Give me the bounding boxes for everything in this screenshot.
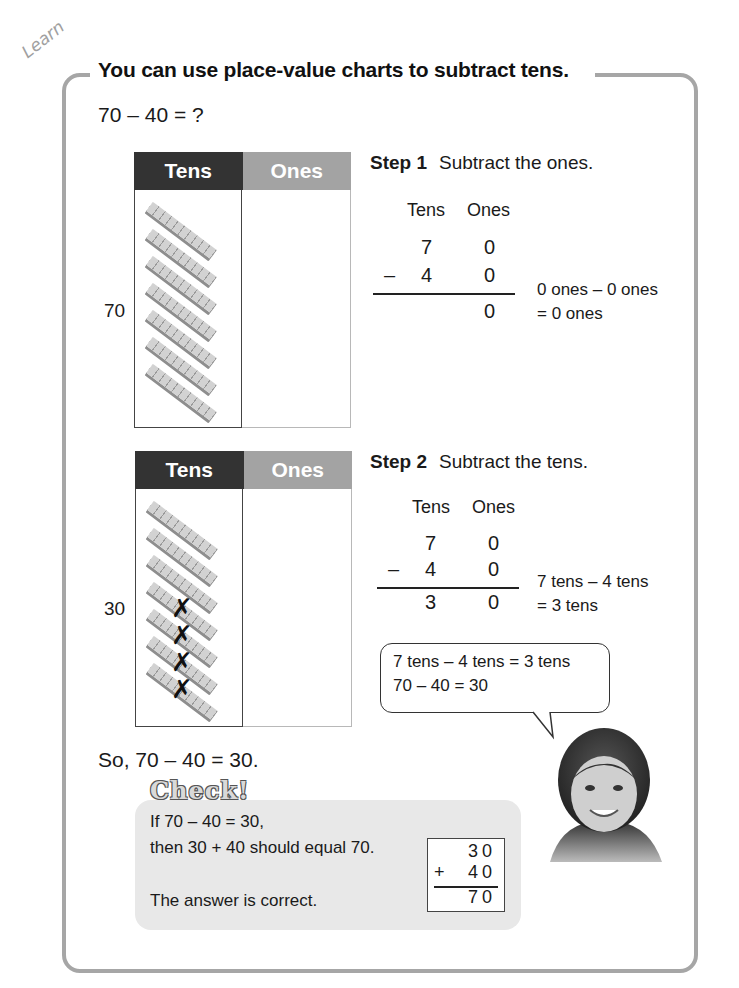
sum: 70 <box>468 887 496 908</box>
child-photo <box>540 722 668 862</box>
step-2-heading: Step 2Subtract the tens. <box>370 451 588 473</box>
step-1-label: Step 1 <box>370 152 427 173</box>
learn-tag: Learn <box>18 17 68 62</box>
note-line: 7 tens – 4 tens <box>537 570 649 594</box>
digit: 4 <box>421 264 432 287</box>
check-line: If 70 – 40 = 30, <box>150 812 264 832</box>
digit: 0 <box>488 532 499 555</box>
digit: 7 <box>425 532 436 555</box>
step-1-note: 0 ones – 0 ones = 0 ones <box>537 278 658 326</box>
place-value-chart-1: Tens Ones <box>134 152 351 428</box>
digit: 3 <box>425 591 436 614</box>
tens-column: ✗ ✗ ✗ ✗ <box>135 489 243 727</box>
step-1-title: Subtract the ones. <box>439 152 593 173</box>
col-label-tens: Tens <box>407 200 445 221</box>
step-2-title: Subtract the tens. <box>439 451 588 472</box>
tens-header: Tens <box>135 451 244 489</box>
tens-header: Tens <box>134 152 243 190</box>
bubble-line: 7 tens – 4 tens = 3 tens <box>393 650 597 674</box>
cross-out-icon: ✗ <box>171 647 193 677</box>
digit: 0 <box>484 300 495 323</box>
conclusion: So, 70 – 40 = 30. <box>98 748 259 772</box>
digit: 0 <box>484 264 495 287</box>
note-line: = 3 tens <box>537 594 649 618</box>
digit: 0 <box>488 591 499 614</box>
lesson-title: You can use place-value charts to subtra… <box>98 58 569 82</box>
addend: 30 <box>468 841 496 862</box>
problem-statement: 70 – 40 = ? <box>98 103 204 127</box>
digit: 4 <box>425 558 436 581</box>
check-line: The answer is correct. <box>150 891 317 911</box>
chart-1-value: 70 <box>104 300 125 322</box>
bubble-line: 70 – 40 = 30 <box>393 674 597 698</box>
step-2-note: 7 tens – 4 tens = 3 tens <box>537 570 649 618</box>
digit: 0 <box>484 236 495 259</box>
subtraction-rule <box>377 587 519 589</box>
ones-header: Ones <box>243 152 352 190</box>
ones-header: Ones <box>244 451 353 489</box>
tens-column <box>134 190 242 428</box>
ones-column <box>242 190 351 428</box>
addition-check-box: 30 + 40 70 <box>427 838 505 912</box>
digit: 7 <box>421 236 432 259</box>
col-label-tens: Tens <box>412 497 450 518</box>
place-value-chart-2: Tens Ones ✗ ✗ ✗ ✗ <box>135 451 352 727</box>
chart-2-value: 30 <box>104 598 125 620</box>
plus-sign: + <box>434 862 449 883</box>
col-label-ones: Ones <box>467 200 510 221</box>
col-label-ones: Ones <box>472 497 515 518</box>
check-title: Check! <box>150 776 250 805</box>
digit: 0 <box>488 558 499 581</box>
minus-sign: – <box>384 264 395 287</box>
step-2-label: Step 2 <box>370 451 427 472</box>
ones-column <box>243 489 352 727</box>
cross-out-icon: ✗ <box>171 674 193 704</box>
subtraction-rule <box>373 293 515 295</box>
check-line: then 30 + 40 should equal 70. <box>150 838 375 858</box>
speech-bubble: 7 tens – 4 tens = 3 tens 70 – 40 = 30 <box>380 643 610 713</box>
note-line: = 0 ones <box>537 302 658 326</box>
minus-sign: – <box>388 558 399 581</box>
cross-out-icon: ✗ <box>171 620 193 650</box>
addend: 40 <box>468 862 496 883</box>
note-line: 0 ones – 0 ones <box>537 278 658 302</box>
cross-out-icon: ✗ <box>171 593 193 623</box>
step-1-heading: Step 1Subtract the ones. <box>370 152 593 174</box>
